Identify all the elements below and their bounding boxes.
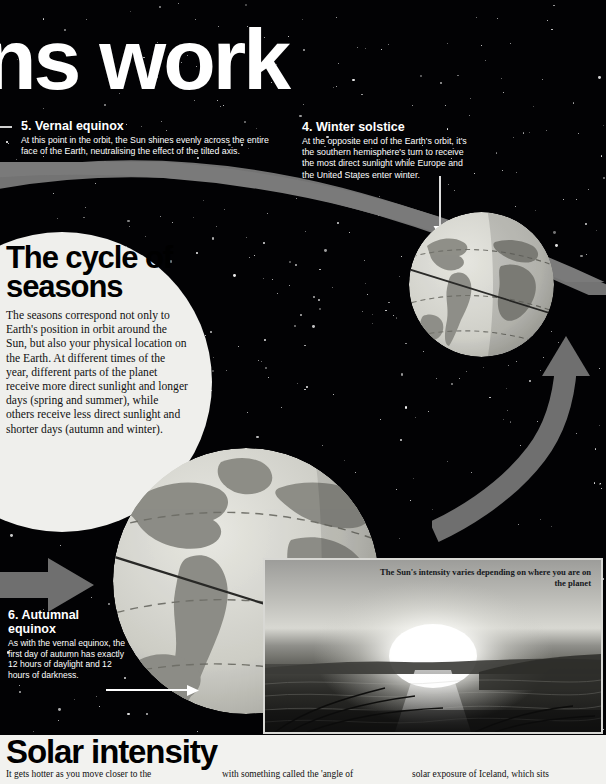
star: [601, 155, 603, 157]
star: [297, 383, 299, 385]
star: [306, 386, 308, 388]
star: [313, 296, 316, 299]
star: [336, 17, 337, 18]
star: [405, 406, 408, 409]
sunset-over-water-photo: The Sun's intensity varies depending on …: [263, 558, 603, 734]
star: [226, 370, 227, 371]
star: [247, 412, 248, 413]
star: [399, 276, 400, 277]
star: [58, 708, 61, 711]
star: [57, 218, 58, 219]
star: [324, 249, 327, 252]
star: [213, 357, 214, 358]
star: [212, 237, 215, 240]
star: [272, 279, 273, 280]
star: [372, 323, 373, 324]
star: [263, 278, 264, 279]
star: [263, 242, 265, 244]
star: [365, 283, 366, 284]
star: [400, 439, 402, 441]
cycle-of-seasons-title: The cycle of seasons: [6, 243, 188, 301]
star: [265, 367, 267, 369]
star: [553, 5, 555, 7]
star: [349, 232, 350, 233]
annotation-body: At this point in the orbit, the Sun shin…: [21, 135, 276, 157]
star: [190, 170, 192, 172]
annotation-body: At the opposite end of the Earth's orbit…: [302, 136, 477, 181]
star: [576, 199, 577, 200]
leader-line-autumn: [106, 689, 192, 691]
star: [413, 478, 414, 479]
cycle-of-seasons-content: The cycle of seasons The seasons corresp…: [6, 243, 188, 437]
star: [304, 345, 306, 347]
star: [396, 489, 397, 490]
star: [546, 130, 547, 131]
star: [401, 373, 404, 376]
star: [101, 170, 102, 171]
star: [365, 48, 366, 49]
star: [367, 294, 368, 295]
star: [10, 534, 13, 537]
star: [145, 236, 146, 237]
star: [533, 106, 534, 107]
star: [378, 204, 379, 205]
star: [104, 161, 106, 163]
star: [510, 43, 511, 44]
star: [160, 216, 161, 217]
star: [361, 94, 363, 96]
star: [304, 389, 306, 391]
star: [258, 360, 259, 361]
star: [319, 308, 321, 310]
star: [159, 6, 161, 8]
star: [319, 269, 321, 271]
star: [380, 419, 381, 420]
star: [542, 79, 543, 80]
star: [264, 339, 266, 341]
star: [410, 500, 411, 501]
star: [362, 311, 363, 312]
star: [295, 264, 297, 266]
star: [535, 210, 536, 211]
star: [470, 98, 471, 99]
star: [578, 133, 579, 134]
star: [277, 293, 278, 294]
annotation-heading: 5. Vernal equinox: [21, 119, 276, 133]
annotation-winter-solstice: 4. Winter solstice At the opposite end o…: [302, 120, 477, 181]
star: [19, 685, 20, 686]
star: [99, 706, 100, 707]
star: [352, 79, 355, 82]
star: [83, 217, 85, 219]
star: [598, 76, 601, 79]
star: [338, 63, 339, 64]
star: [586, 254, 587, 255]
star: [193, 217, 194, 218]
star: [303, 104, 304, 105]
star: [53, 193, 54, 194]
star: [297, 179, 298, 180]
star: [448, 184, 449, 185]
photo-caption: The Sun's intensity varies depending on …: [371, 567, 591, 588]
star: [388, 44, 389, 45]
star: [381, 49, 382, 50]
star: [261, 361, 262, 362]
star: [481, 45, 482, 46]
star: [388, 302, 390, 304]
leader-dot-vernal: [6, 141, 8, 143]
star: [337, 222, 339, 224]
star: [246, 237, 247, 238]
solar-body-column-1: It gets hotter as you move closer to the: [6, 769, 211, 780]
annotation-heading: 6. Autumnal equinox: [8, 609, 126, 636]
star: [357, 47, 358, 48]
star: [233, 274, 236, 277]
star: [555, 244, 558, 247]
star: [289, 261, 291, 263]
star: [210, 331, 213, 334]
star: [318, 299, 320, 301]
star: [476, 17, 477, 18]
star: [305, 231, 306, 232]
star: [547, 20, 548, 21]
star: [336, 86, 337, 87]
star: [224, 209, 225, 210]
star: [281, 407, 282, 408]
star: [267, 213, 268, 214]
